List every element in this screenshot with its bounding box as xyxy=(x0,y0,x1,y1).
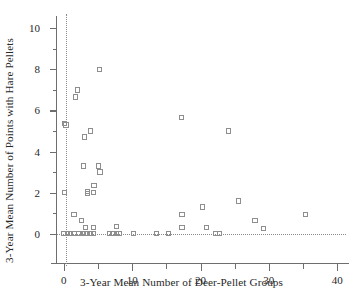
y-tick-10: 10 xyxy=(50,28,57,29)
y-tick-minor-5 xyxy=(53,131,58,132)
data-point xyxy=(91,225,96,230)
x-tick-minor-15 xyxy=(166,264,167,269)
x-tick-label-30: 30 xyxy=(263,274,274,286)
data-point xyxy=(91,183,96,188)
data-point xyxy=(88,128,93,133)
y-tick-0: 0 xyxy=(50,234,57,235)
y-tick-label-6: 6 xyxy=(35,104,41,116)
data-point xyxy=(217,231,222,236)
y-tick-4: 4 xyxy=(50,152,57,153)
data-point xyxy=(79,218,84,223)
data-point xyxy=(179,212,184,217)
x-tick-40 xyxy=(337,264,338,271)
data-point xyxy=(303,212,308,217)
x-tick-20 xyxy=(201,264,202,271)
data-point xyxy=(81,163,86,168)
x-tick-label-0: 0 xyxy=(61,274,67,286)
y-tick-2: 2 xyxy=(50,193,57,194)
data-point xyxy=(179,115,184,120)
x-tick-minor-25 xyxy=(235,264,236,269)
y-tick-minor-1 xyxy=(53,213,58,214)
data-point xyxy=(97,67,102,72)
y-tick-label-0: 0 xyxy=(35,228,41,240)
y-axis-line xyxy=(56,16,57,263)
data-point xyxy=(252,218,257,223)
y-tick-label-2: 2 xyxy=(35,187,41,199)
y-tick-minor-7 xyxy=(53,90,58,91)
data-point xyxy=(91,190,96,195)
x-tick-0 xyxy=(64,264,65,271)
data-point xyxy=(82,134,87,139)
y-axis-title: 3-Year Mean Number of Points with Hare P… xyxy=(0,0,18,301)
data-point xyxy=(91,231,96,236)
data-point xyxy=(236,198,241,203)
data-point xyxy=(226,128,231,133)
y-tick-minor-9 xyxy=(53,49,58,50)
y-tick-label-10: 10 xyxy=(29,22,40,34)
horizontal-reference-line xyxy=(53,234,346,235)
data-point xyxy=(62,190,67,195)
data-point xyxy=(96,163,101,168)
data-point xyxy=(75,87,80,92)
data-point xyxy=(71,212,76,217)
y-tick-minor-3 xyxy=(53,172,58,173)
data-point xyxy=(83,225,88,230)
data-point xyxy=(131,231,136,236)
data-point xyxy=(114,224,119,229)
data-point xyxy=(261,226,266,231)
x-tick-label-20: 20 xyxy=(195,274,206,286)
y-tick-6: 6 xyxy=(50,110,57,111)
data-point xyxy=(154,231,159,236)
scatter-chart-figure: 3-Year Mean Number of Points with Hare P… xyxy=(0,0,363,301)
data-point xyxy=(73,94,78,99)
data-point xyxy=(97,169,102,174)
x-tick-label-10: 10 xyxy=(127,274,138,286)
x-tick-30 xyxy=(269,264,270,271)
data-point xyxy=(63,122,68,127)
data-point xyxy=(200,204,205,209)
x-tick-minor-35 xyxy=(303,264,304,269)
y-tick-label-8: 8 xyxy=(35,63,41,75)
x-tick-label-40: 40 xyxy=(332,274,343,286)
data-point xyxy=(204,225,209,230)
data-point xyxy=(166,231,171,236)
y-tick-8: 8 xyxy=(50,69,57,70)
data-point xyxy=(179,225,184,230)
data-point xyxy=(116,231,121,236)
x-tick-10 xyxy=(132,264,133,271)
y-tick-label-4: 4 xyxy=(35,146,41,158)
x-axis-title: 3-Year Mean Number of Deer-Pellet Groups xyxy=(0,276,363,288)
plot-area: 0246810 010203040 xyxy=(57,20,344,243)
x-tick-minor-5 xyxy=(98,264,99,269)
vertical-reference-line xyxy=(66,14,67,266)
